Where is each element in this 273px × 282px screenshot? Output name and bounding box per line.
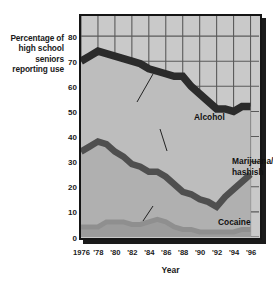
annotation-alcohol-label: Alcohol <box>194 112 225 122</box>
x-tick-82: '82 <box>127 248 137 257</box>
plot-area <box>81 16 260 238</box>
x-tick-96: '96 <box>246 248 256 257</box>
y-tick-20: 20 <box>55 183 77 192</box>
x-tick-1976: 1976 <box>73 248 90 257</box>
y-tick-10: 10 <box>55 208 77 217</box>
x-tick-78: '78 <box>93 248 103 257</box>
x-tick-90: '90 <box>195 248 205 257</box>
x-tick-92: '92 <box>212 248 222 257</box>
y-tick-30: 30 <box>55 158 77 167</box>
annotation-marijuana-label-2: hashish <box>232 167 273 178</box>
annotation-marijuana-label-1: Marijuana/ <box>232 156 273 167</box>
x-axis-title: Year <box>79 265 262 275</box>
y-tick-80: 80 <box>55 32 77 41</box>
y-tick-60: 60 <box>55 82 77 91</box>
x-tick-84: '84 <box>144 248 154 257</box>
x-tick-86: '86 <box>161 248 171 257</box>
annotation-marijuana: Marijuana/ hashish <box>232 156 273 177</box>
plot-frame: Alcohol Marijuana/ hashish Cocaine <box>79 14 262 240</box>
x-tick-80: '80 <box>110 248 120 257</box>
y-tick-70: 70 <box>55 57 77 66</box>
y-axis-tick-labels: 01020304050607080 <box>53 0 77 282</box>
y-tick-50: 50 <box>55 107 77 116</box>
chart-canvas <box>81 16 259 237</box>
y-tick-0: 0 <box>55 233 77 242</box>
y-tick-40: 40 <box>55 133 77 142</box>
x-tick-88: '88 <box>178 248 188 257</box>
x-tick-94: '94 <box>229 248 239 257</box>
annotation-cocaine-label: Cocaine <box>218 217 251 227</box>
annotation-alcohol: Alcohol <box>194 112 225 123</box>
x-axis-tick-labels: 1976'78'80'82'84'86'88'90'92'94'96 <box>0 248 273 262</box>
annotation-cocaine: Cocaine <box>218 217 251 228</box>
chart-figure: Percentage of high school seniors report… <box>0 0 273 282</box>
